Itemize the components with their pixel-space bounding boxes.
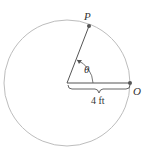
point-O [128, 81, 132, 85]
label-P: P [83, 10, 91, 22]
label-radius-length: 4 ft [91, 95, 105, 106]
label-O: O [133, 85, 141, 97]
label-theta: θ [84, 63, 90, 75]
radius-brace [68, 85, 130, 93]
point-P [87, 24, 91, 28]
circle-diagram: P O θ 4 ft [0, 0, 163, 162]
